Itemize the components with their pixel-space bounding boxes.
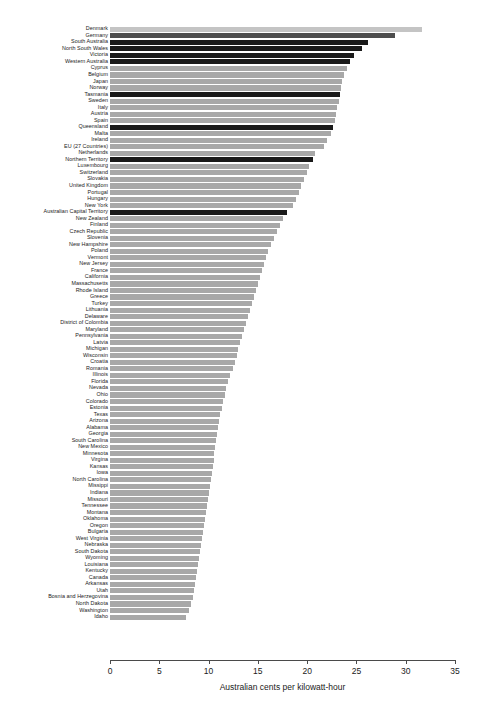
bar — [110, 556, 199, 561]
bar — [110, 595, 193, 600]
bar — [110, 131, 331, 136]
bar — [110, 210, 287, 215]
bar — [110, 582, 195, 587]
bar — [110, 353, 237, 358]
bar — [110, 419, 219, 424]
bar — [110, 536, 202, 541]
x-axis-tick — [406, 660, 407, 664]
bar — [110, 190, 299, 195]
bar — [110, 497, 208, 502]
bar — [110, 379, 228, 384]
bar — [110, 562, 198, 567]
bar — [110, 588, 194, 593]
bar — [110, 314, 248, 319]
x-axis-tick-label: 15 — [253, 666, 262, 676]
bar — [110, 477, 211, 482]
bar — [110, 40, 368, 45]
bar — [110, 118, 335, 123]
bar — [110, 543, 201, 548]
x-axis-tick-label: 20 — [302, 666, 311, 676]
x-axis-tick — [455, 660, 456, 664]
bar — [110, 517, 205, 522]
bar — [110, 177, 304, 182]
bar — [110, 308, 250, 313]
category-label-row: Idaho — [0, 614, 108, 621]
x-axis-title: Australian cents per kilowatt-hour — [110, 682, 455, 692]
bar — [110, 33, 395, 38]
bar — [110, 223, 280, 228]
bar — [110, 59, 350, 64]
x-axis-tick — [356, 660, 357, 664]
x-axis-tick-label: 30 — [401, 666, 410, 676]
bar — [110, 92, 340, 97]
bar — [110, 170, 307, 175]
bar — [110, 79, 342, 84]
bar — [110, 105, 337, 110]
bar — [110, 569, 197, 574]
x-axis-tick — [258, 660, 259, 664]
bar — [110, 471, 212, 476]
bar — [110, 510, 206, 515]
bar — [110, 229, 277, 234]
x-axis-tick-label: 5 — [157, 666, 162, 676]
bar — [110, 236, 274, 241]
bar — [110, 615, 186, 620]
bar — [110, 125, 333, 130]
x-axis-tick-label: 0 — [108, 666, 113, 676]
bar — [110, 262, 264, 267]
bar — [110, 484, 210, 489]
category-label: Idaho — [94, 614, 108, 619]
bar — [110, 530, 203, 535]
bar — [110, 216, 283, 221]
bar — [110, 347, 238, 352]
bar — [110, 249, 268, 254]
x-axis-tick-label: 35 — [450, 666, 459, 676]
bar — [110, 144, 324, 149]
bar — [110, 203, 293, 208]
bar — [110, 112, 336, 117]
bar — [110, 72, 344, 77]
bar — [110, 327, 244, 332]
bar — [110, 366, 233, 371]
bar — [110, 451, 214, 456]
bar — [110, 399, 223, 404]
bar-chart: DenmarkGermanySouth AustraliaNorth South… — [0, 0, 487, 715]
x-axis-tick — [159, 660, 160, 664]
bar — [110, 503, 207, 508]
bar — [110, 99, 339, 104]
bar — [110, 85, 341, 90]
bar — [110, 301, 252, 306]
x-axis-tick — [110, 660, 111, 664]
bar — [110, 386, 226, 391]
bar — [110, 601, 191, 606]
x-axis-line — [110, 660, 455, 661]
bar — [110, 164, 309, 169]
bar — [110, 406, 222, 411]
bar — [110, 138, 327, 143]
bar — [110, 268, 262, 273]
bar — [110, 575, 196, 580]
bar — [110, 445, 215, 450]
bar — [110, 255, 266, 260]
bar — [110, 360, 235, 365]
bar — [110, 438, 216, 443]
bar — [110, 334, 242, 339]
bar — [110, 183, 301, 188]
x-axis-tick — [209, 660, 210, 664]
bar — [110, 294, 254, 299]
bar — [110, 523, 204, 528]
bar — [110, 412, 220, 417]
category-label-column: DenmarkGermanySouth AustraliaNorth South… — [0, 26, 108, 660]
bar — [110, 27, 422, 32]
bar — [110, 321, 246, 326]
bar — [110, 151, 315, 156]
bar — [110, 392, 225, 397]
bar — [110, 425, 218, 430]
bar-row — [110, 614, 455, 621]
bar — [110, 432, 217, 437]
bar — [110, 157, 313, 162]
bar — [110, 458, 214, 463]
x-axis-tick — [307, 660, 308, 664]
bar — [110, 373, 230, 378]
x-axis-tick-label: 10 — [204, 666, 213, 676]
